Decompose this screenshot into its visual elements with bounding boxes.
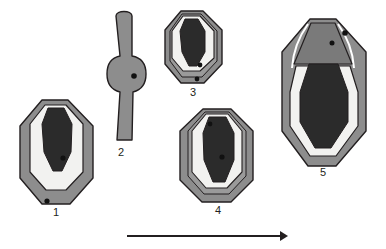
specimen-2-body	[107, 12, 146, 141]
specimen-4-group	[180, 109, 253, 202]
specimen-1-label: 1	[46, 206, 66, 218]
figure-canvas: 1 2 3 4 5	[0, 0, 386, 249]
specimen-1-dot-outer	[44, 198, 49, 203]
specimen-4-label: 4	[208, 204, 228, 216]
specimen-2-group	[107, 12, 146, 141]
specimen-3-group	[165, 11, 222, 83]
specimen-5-label: 5	[313, 166, 333, 178]
specimen-3-label: 3	[183, 86, 203, 98]
specimen-4-dot-core	[219, 154, 224, 159]
specimen-5-dot-upper	[342, 30, 348, 36]
arrow-head-icon	[280, 231, 288, 241]
specimen-3-dot-inner	[198, 63, 203, 68]
specimen-2-label: 2	[111, 146, 131, 158]
specimen-1-group	[20, 100, 93, 204]
specimen-5-group	[282, 19, 366, 166]
specimen-3-dot-outer	[195, 77, 200, 82]
specimen-4-dot-upper	[208, 122, 213, 127]
specimen-1-dot-core	[60, 155, 65, 160]
specimen-2-dot	[131, 73, 137, 79]
progression-arrow	[127, 231, 288, 241]
specimen-5-dot-lower	[330, 41, 335, 46]
